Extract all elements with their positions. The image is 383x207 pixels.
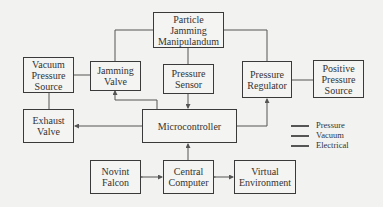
legend-vacuum-label: Vacuum — [316, 131, 344, 140]
positive-pressure-source-box: Positive Pressure Source — [313, 60, 364, 98]
legend-electrical-label: Electrical — [316, 141, 349, 150]
pressure-sensor-box: Pressure Sensor — [163, 64, 214, 94]
jamming-valve-box: Jamming Valve — [90, 61, 141, 91]
legend-pressure-line — [291, 125, 309, 127]
central-computer-box: Central Computer — [163, 160, 214, 194]
legend-pressure-label: Pressure — [316, 121, 345, 130]
vacuum-pressure-source-box: Vacuum Pressure Source — [23, 57, 74, 93]
pressure-regulator-box: Pressure Regulator — [242, 61, 292, 98]
microcontroller-box: Microcontroller — [142, 109, 237, 143]
particle-jamming-manipulandum-box: Particle Jamming Manipulandum — [153, 12, 224, 48]
legend-vacuum-line — [291, 135, 309, 137]
exhaust-valve-box: Exhaust Valve — [23, 109, 74, 143]
legend-electrical-line — [291, 145, 309, 147]
novint-falcon-box: Novint Falcon — [90, 160, 141, 194]
virtual-environment-box: Virtual Environment — [234, 160, 296, 194]
